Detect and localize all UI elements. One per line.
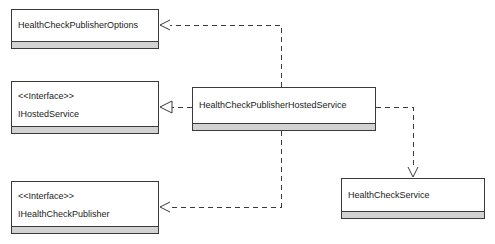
class-node-health-check-publisher-hosted-service[interactable]: HealthCheckPublisherHostedService xyxy=(192,87,376,131)
class-stereotype: <<Interface>> xyxy=(18,90,152,103)
class-body: HealthCheckPublisherHostedService xyxy=(193,88,375,123)
edge-ihealth-check-publisher xyxy=(160,131,281,212)
open-arrowhead-icon xyxy=(160,202,170,212)
class-name: IHostedService xyxy=(18,108,152,121)
edge-health-check-service xyxy=(376,107,418,177)
class-body: HealthCheckPublisherOptions xyxy=(12,10,158,41)
class-body: HealthCheckService xyxy=(342,179,484,211)
class-name: IHealthCheckPublisher xyxy=(18,208,152,221)
class-name: HealthCheckService xyxy=(348,189,478,202)
class-node-health-check-service[interactable]: HealthCheckService xyxy=(341,178,485,219)
class-stereotype: <<Interface>> xyxy=(18,190,152,203)
class-members-compartment xyxy=(12,126,158,133)
edge-health-check-publisher-options xyxy=(160,20,281,87)
class-members-compartment xyxy=(193,123,375,130)
class-body: <<Interface>> IHostedService xyxy=(12,82,158,126)
hollow-triangle-arrowhead-icon xyxy=(160,101,172,113)
interface-node-ihealth-check-publisher[interactable]: <<Interface>> IHealthCheckPublisher xyxy=(11,181,159,234)
edge-ihosted-service xyxy=(160,101,192,113)
class-members-compartment xyxy=(12,226,158,233)
uml-class-diagram: HealthCheckPublisherOptions <<Interface>… xyxy=(0,0,495,244)
class-node-health-check-publisher-options[interactable]: HealthCheckPublisherOptions xyxy=(11,9,159,49)
class-members-compartment xyxy=(12,41,158,48)
class-body: <<Interface>> IHealthCheckPublisher xyxy=(12,182,158,226)
interface-node-ihosted-service[interactable]: <<Interface>> IHostedService xyxy=(11,81,159,134)
open-arrowhead-icon xyxy=(408,167,418,177)
open-arrowhead-icon xyxy=(160,20,170,30)
class-members-compartment xyxy=(342,211,484,218)
class-name: HealthCheckPublisherOptions xyxy=(18,19,152,32)
class-name: HealthCheckPublisherHostedService xyxy=(199,99,369,112)
